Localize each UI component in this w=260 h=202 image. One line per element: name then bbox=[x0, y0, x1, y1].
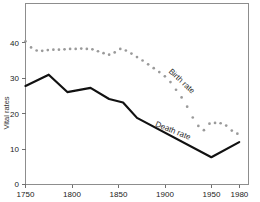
x-tick-label-1900: 1900 bbox=[156, 190, 174, 199]
data-point bbox=[63, 48, 66, 51]
y-tick-label-0: 0 bbox=[15, 180, 20, 189]
data-point bbox=[35, 49, 38, 52]
data-point bbox=[230, 129, 233, 132]
data-point bbox=[191, 116, 194, 119]
data-point bbox=[169, 81, 172, 84]
data-point bbox=[119, 48, 122, 51]
data-point bbox=[219, 122, 222, 125]
series-layer bbox=[24, 40, 239, 157]
y-axis: 0 10 20 30 40 Vital rates bbox=[2, 39, 26, 189]
x-tick-label-1800: 1800 bbox=[63, 190, 81, 199]
data-point bbox=[80, 47, 83, 50]
data-point bbox=[164, 75, 167, 78]
plot-frame bbox=[26, 4, 249, 185]
series-death-rate bbox=[26, 75, 240, 157]
data-point bbox=[186, 105, 189, 108]
data-point bbox=[197, 125, 200, 128]
data-point bbox=[108, 53, 111, 56]
data-point bbox=[175, 88, 178, 91]
x-tick-label-1750: 1750 bbox=[17, 190, 35, 199]
data-point bbox=[41, 50, 44, 53]
data-point bbox=[136, 56, 139, 59]
data-point bbox=[102, 52, 105, 55]
data-point bbox=[180, 96, 183, 99]
data-point bbox=[85, 48, 88, 51]
data-point bbox=[152, 67, 155, 70]
y-tick-label-10: 10 bbox=[10, 145, 19, 154]
data-point bbox=[69, 48, 72, 51]
data-point bbox=[91, 48, 94, 51]
data-point bbox=[147, 63, 150, 66]
series-birth-rate bbox=[24, 40, 239, 135]
vital-rates-chart: 0 10 20 30 40 Vital rates 1750 1800 1850… bbox=[0, 0, 260, 202]
x-tick-group bbox=[26, 185, 240, 189]
y-tick-label-20: 20 bbox=[10, 110, 19, 119]
y-tick-group bbox=[22, 43, 26, 185]
data-point bbox=[46, 49, 49, 52]
data-point bbox=[236, 132, 239, 135]
x-axis: 1750 1800 1850 1900 1950 1980 bbox=[17, 185, 249, 200]
chart-canvas: 0 10 20 30 40 Vital rates 1750 1800 1850… bbox=[0, 0, 260, 202]
y-axis-title: Vital rates bbox=[2, 96, 11, 129]
data-point bbox=[113, 51, 116, 54]
data-point bbox=[97, 50, 100, 53]
data-point bbox=[225, 124, 228, 127]
series-line bbox=[26, 75, 240, 157]
data-point bbox=[52, 48, 55, 51]
data-point bbox=[30, 46, 33, 49]
x-tick-label-1950: 1950 bbox=[203, 190, 221, 199]
data-point bbox=[203, 129, 206, 132]
data-point bbox=[214, 122, 217, 125]
x-tick-label-1850: 1850 bbox=[110, 190, 128, 199]
data-point bbox=[130, 52, 133, 55]
data-point bbox=[74, 48, 77, 51]
y-tick-label-30: 30 bbox=[10, 74, 19, 83]
data-point bbox=[158, 71, 161, 74]
y-tick-label-40: 40 bbox=[10, 39, 19, 48]
data-point bbox=[58, 48, 61, 51]
data-point bbox=[24, 40, 27, 43]
data-point bbox=[208, 122, 211, 125]
data-point bbox=[141, 59, 144, 62]
data-point bbox=[125, 49, 128, 52]
x-tick-label-1980: 1980 bbox=[231, 190, 249, 199]
